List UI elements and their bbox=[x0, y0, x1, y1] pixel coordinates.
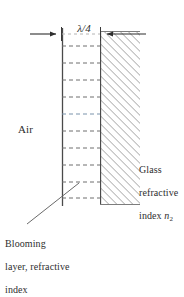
glass-label-line-2: refractive bbox=[139, 187, 184, 199]
blooming-label-line-3: index bbox=[5, 284, 101, 296]
blooming-label-line-1: Blooming bbox=[5, 238, 101, 250]
glass-label-line-1: Glass bbox=[139, 164, 184, 176]
glass-region-label: Glass refractive index n2 bbox=[139, 152, 184, 233]
glass-label-line-3: index n2 bbox=[139, 210, 184, 222]
glass-substrate bbox=[100, 31, 140, 205]
thickness-label: λ/4 bbox=[63, 9, 105, 35]
blooming-layer bbox=[62, 28, 100, 206]
glass-refractive-index-subscript: 2 bbox=[169, 215, 173, 223]
air-region-label-text: Air bbox=[18, 123, 33, 135]
air-region-label: Air bbox=[18, 110, 33, 136]
blooming-label-line-2: layer, refractive bbox=[5, 261, 101, 273]
blooming-layer-label: Blooming layer, refractive index bbox=[5, 226, 101, 297]
glass-label-index-word: index bbox=[139, 210, 164, 221]
thickness-label-text: λ/4 bbox=[77, 22, 91, 34]
